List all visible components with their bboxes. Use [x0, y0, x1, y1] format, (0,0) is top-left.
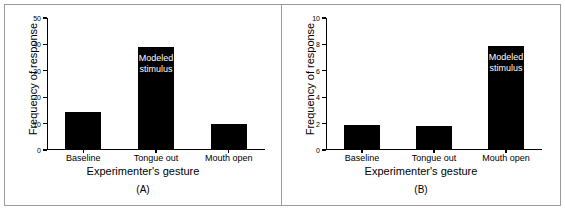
x-tick-label-b-1: Tongue out — [412, 153, 457, 164]
bar-b-tongue-out — [416, 126, 452, 150]
figure-two-panel-bar-charts: Frequency of response 01020304050Baselin… — [0, 0, 565, 212]
panel-tag-a: (A) — [5, 184, 281, 196]
bar-a-mouth-open — [211, 124, 247, 150]
y-tick-a-3 — [43, 70, 47, 71]
y-tick-label-b-5: 10 — [312, 15, 320, 22]
bar-annotation-b: Modeledstimulus — [488, 52, 524, 74]
y-tick-a-2 — [43, 97, 47, 98]
x-axis-label-a: Experimenter's gesture — [5, 165, 281, 178]
panel-b: Frequency of response 0246810BaselineTon… — [282, 4, 560, 206]
y-tick-label-a-5: 50 — [33, 15, 41, 22]
y-tick-b-2 — [322, 97, 326, 98]
y-tick-label-b-2: 4 — [316, 94, 320, 101]
bar-a-tongue-out: Modeledstimulus — [138, 47, 174, 150]
y-tick-a-4 — [43, 44, 47, 45]
y-tick-b-0 — [322, 149, 326, 150]
plot-area-b: 0246810BaselineTongue outModeledstimulus… — [326, 18, 542, 150]
plot-area-a: 01020304050BaselineModeledstimulusTongue… — [47, 18, 265, 150]
bar-annotation-line2-b: stimulus — [488, 63, 524, 74]
bar-annotation-line1-b: Modeled — [488, 52, 524, 63]
y-tick-label-b-3: 6 — [316, 67, 320, 74]
y-tick-a-0 — [43, 149, 47, 150]
figure-border-right — [560, 4, 561, 206]
bar-b-mouth-open: Modeledstimulus — [488, 46, 524, 150]
y-tick-label-a-3: 30 — [33, 67, 41, 74]
y-tick-a-5 — [43, 17, 47, 18]
y-tick-b-1 — [322, 123, 326, 124]
y-tick-label-a-0: 0 — [37, 147, 41, 154]
x-tick-label-a-2: Mouth open — [205, 153, 253, 164]
y-tick-label-a-1: 10 — [33, 120, 41, 127]
panel-tag-b: (B) — [282, 184, 560, 196]
x-tick-label-b-0: Baseline — [345, 153, 380, 164]
bar-annotation-line1-a: Modeled — [138, 53, 174, 64]
panel-a: Frequency of response 01020304050Baselin… — [5, 4, 281, 206]
y-tick-a-1 — [43, 123, 47, 124]
x-tick-label-a-1: Tongue out — [134, 153, 179, 164]
y-tick-b-3 — [322, 70, 326, 71]
x-axis-label-b: Experimenter's gesture — [282, 165, 560, 178]
bar-b-baseline — [344, 125, 380, 150]
y-tick-label-a-2: 20 — [33, 94, 41, 101]
y-axis-line-a — [47, 18, 48, 150]
bar-annotation-line2-a: stimulus — [138, 64, 174, 75]
y-tick-label-a-4: 40 — [33, 41, 41, 48]
y-tick-label-b-4: 8 — [316, 41, 320, 48]
y-tick-b-4 — [322, 44, 326, 45]
bar-a-baseline — [65, 112, 101, 150]
y-tick-label-b-1: 2 — [316, 120, 320, 127]
x-tick-label-a-0: Baseline — [66, 153, 101, 164]
y-tick-b-5 — [322, 17, 326, 18]
y-axis-line-b — [326, 18, 327, 150]
y-tick-label-b-0: 0 — [316, 147, 320, 154]
bar-annotation-a: Modeledstimulus — [138, 53, 174, 75]
x-tick-label-b-2: Mouth open — [482, 153, 530, 164]
